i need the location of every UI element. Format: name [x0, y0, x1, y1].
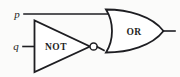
logic-circuit-diagram: p q NOT OR — [0, 0, 180, 77]
circuit-svg: p q NOT OR — [0, 0, 180, 77]
inverter-bubble-icon — [90, 43, 97, 50]
or-gate-label: OR — [126, 27, 141, 37]
input-label-q: q — [13, 40, 19, 52]
input-label-p: p — [13, 8, 20, 20]
not-gate-label: NOT — [45, 42, 67, 52]
not-to-or-wire — [97, 47, 104, 51]
